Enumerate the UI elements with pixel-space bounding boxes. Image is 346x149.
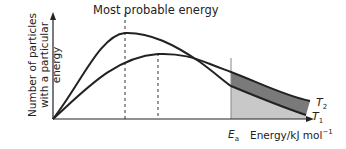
x-axis-label: Energy/kJ mol−1 (250, 128, 333, 141)
most-probable-energy-label: Most probable energy (93, 3, 219, 17)
activation-energy-label: Ea (228, 128, 239, 143)
y-axis-label: Number of particles with a particular en… (26, 5, 62, 125)
t2-label: T2 (316, 96, 327, 111)
t1-label: T1 (312, 110, 323, 125)
